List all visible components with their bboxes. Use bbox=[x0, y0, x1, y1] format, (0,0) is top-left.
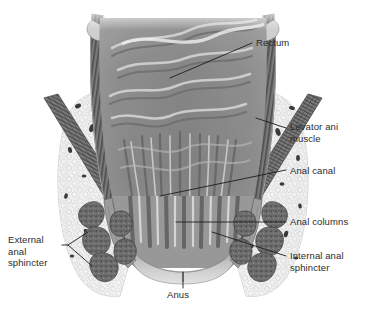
label-internal-anal-sphincter: Internal anal sphincter bbox=[290, 250, 344, 273]
label-anus: Anus bbox=[167, 289, 189, 301]
anatomy-figure: Rectum Levator ani muscle Anal canal Ana… bbox=[0, 0, 367, 317]
top-fade bbox=[80, 0, 290, 30]
label-anal-columns: Anal columns bbox=[290, 216, 348, 228]
label-levator-ani-muscle: Levator ani muscle bbox=[290, 121, 338, 144]
label-anal-canal: Anal canal bbox=[290, 165, 335, 177]
label-rectum: Rectum bbox=[256, 37, 289, 49]
label-external-anal-sphincter: External anal sphincter bbox=[8, 234, 47, 269]
